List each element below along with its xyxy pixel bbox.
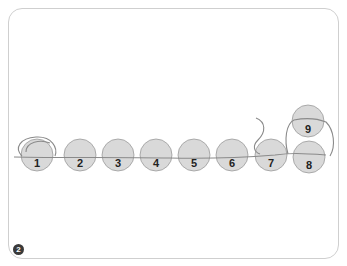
bead-diagram: 123456789 (0, 0, 347, 266)
bead-label: 2 (77, 157, 83, 169)
bead-label: 8 (306, 159, 312, 171)
bead-label: 4 (153, 157, 160, 169)
bead-2: 2 (64, 139, 96, 171)
bead-label: 6 (229, 157, 235, 169)
bead-label: 1 (34, 157, 40, 169)
bead-label: 7 (268, 157, 274, 169)
bead-label: 5 (191, 157, 197, 169)
step-number-badge: 2 (13, 244, 24, 255)
bead-5: 5 (178, 139, 210, 171)
bead-3: 3 (102, 139, 134, 171)
bead-9: 9 (292, 105, 324, 137)
bead-label: 3 (115, 157, 121, 169)
bead-1: 1 (21, 139, 53, 171)
bead-label: 9 (305, 123, 311, 135)
bead-4: 4 (140, 139, 172, 171)
bead-6: 6 (216, 139, 248, 171)
bead-8: 8 (293, 141, 325, 173)
